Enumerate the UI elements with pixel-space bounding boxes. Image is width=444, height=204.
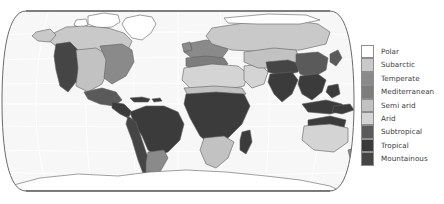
legend-swatch-temperate	[361, 72, 374, 85]
region-caribbean-east	[152, 98, 162, 102]
legend-swatch-arid	[361, 112, 374, 125]
legend-label-temperate: Temperate	[381, 75, 420, 82]
legend-label-subtropical: Subtropical	[381, 128, 422, 135]
map-body	[0, 0, 358, 204]
legend-swatch-tropical	[361, 139, 374, 152]
legend-item-polar[interactable]: Polar	[361, 45, 443, 58]
legend-label-mediterranean: Mediterranean	[381, 88, 434, 95]
climate-map-figure: Polar Subarctic Temperate Mediterranean …	[0, 0, 444, 204]
legend-label-mountainous: Mountainous	[381, 155, 428, 162]
legend-item-subarctic[interactable]: Subarctic	[361, 58, 443, 71]
legend-swatch-mountainous	[361, 152, 374, 165]
legend-item-arid[interactable]: Arid	[361, 112, 443, 125]
climate-zone-legend: Polar Subarctic Temperate Mediterranean …	[361, 45, 443, 166]
region-british-isles	[182, 42, 192, 52]
legend-item-mediterranean[interactable]: Mediterranean	[361, 85, 443, 98]
legend-swatch-mediterranean	[361, 85, 374, 98]
legend-label-polar: Polar	[381, 48, 399, 55]
legend-label-arid: Arid	[381, 115, 396, 122]
legend-item-mountainous[interactable]: Mountainous	[361, 152, 443, 165]
legend-item-semi-arid[interactable]: Semi arid	[361, 99, 443, 112]
legend-label-semi-arid: Semi arid	[381, 102, 416, 109]
legend-swatch-subtropical	[361, 125, 374, 138]
legend-item-temperate[interactable]: Temperate	[361, 72, 443, 85]
world-map-svg	[0, 0, 358, 204]
legend-item-tropical[interactable]: Tropical	[361, 139, 443, 152]
legend-label-tropical: Tropical	[381, 142, 409, 149]
world-map	[0, 0, 358, 204]
legend-swatch-polar	[361, 45, 374, 58]
legend-item-subtropical[interactable]: Subtropical	[361, 125, 443, 138]
legend-swatch-subarctic	[361, 58, 374, 71]
legend-swatch-semi-arid	[361, 99, 374, 112]
legend-label-subarctic: Subarctic	[381, 61, 415, 68]
